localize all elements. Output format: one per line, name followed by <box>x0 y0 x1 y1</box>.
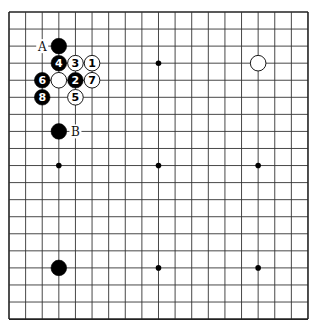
black-stone <box>51 124 67 140</box>
white-stone <box>51 72 67 88</box>
black-stone-move-8: 8 <box>34 90 50 106</box>
move-number: 7 <box>88 74 96 87</box>
move-number: 8 <box>38 91 46 104</box>
move-number: 5 <box>72 91 80 104</box>
black-stone-move-4: 4 <box>51 55 67 71</box>
star-point <box>156 163 162 169</box>
black-stone <box>51 38 67 54</box>
white-stone-move-1: 1 <box>84 55 100 71</box>
go-board: AB 43162785 <box>0 0 315 329</box>
star-point <box>56 163 62 169</box>
white-stone-move-7: 7 <box>84 72 100 88</box>
white-stone <box>250 55 266 71</box>
star-point <box>156 60 162 66</box>
move-number: 6 <box>38 74 46 87</box>
position-marker-a: A <box>37 40 47 54</box>
star-point <box>156 265 162 271</box>
star-point <box>255 163 261 169</box>
white-stone-move-3: 3 <box>68 55 84 71</box>
go-board-diagram: AB 43162785 <box>0 0 315 329</box>
black-stone-move-6: 6 <box>34 72 50 88</box>
black-stone-move-2: 2 <box>68 72 84 88</box>
move-number: 2 <box>72 74 80 87</box>
white-stone-move-5: 5 <box>68 90 84 106</box>
star-point <box>255 265 261 271</box>
black-stone <box>51 260 67 276</box>
move-number: 1 <box>88 57 96 70</box>
position-marker-b: B <box>71 125 80 139</box>
move-number: 3 <box>72 57 80 70</box>
move-number: 4 <box>55 57 63 70</box>
